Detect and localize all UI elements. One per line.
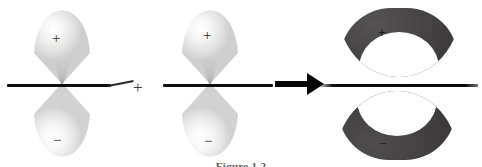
nodal-axis-line-left: [7, 84, 111, 87]
orbital-sign-negative: −: [204, 134, 212, 149]
arrow-shaft: [275, 81, 309, 87]
nodal-plane-line: [320, 84, 478, 87]
nodal-axis-line-right: [163, 84, 273, 87]
figure-caption: Figure 1.2: [0, 160, 482, 167]
molecular-orbital-sign-positive: +: [378, 26, 386, 40]
orbital-combination-figure: + − + + − + −: [0, 0, 482, 167]
orbital-sign-negative: −: [53, 133, 61, 148]
orbital-sign-positive: +: [203, 28, 211, 43]
figure-caption-text: Figure 1.2: [216, 160, 266, 167]
molecular-orbital-sign-negative: −: [379, 137, 387, 151]
orbital-sign-positive: +: [52, 31, 60, 46]
lobe-shading: [34, 83, 90, 157]
molecular-orbital-lobe-top: [340, 8, 458, 80]
molecular-orbital-lobe-bottom: [338, 88, 456, 160]
orbital-lobe-bottom: [34, 83, 90, 157]
